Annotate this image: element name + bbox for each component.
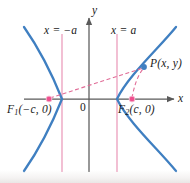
label-focus-left-coords: (−c, 0) <box>18 103 51 115</box>
focus-right-dot <box>129 96 135 102</box>
label-axis-x: x <box>178 93 183 105</box>
label-focus-right: F2(c, 0) <box>118 104 155 117</box>
hyperbola-canvas <box>0 0 190 183</box>
label-line-right: x = a <box>111 25 136 37</box>
focus-left-dot <box>46 96 52 102</box>
label-axis-y: y <box>92 5 97 17</box>
hyperbola-figure: x = −a x = a y x 0 F1(−c, 0) F2(c, 0) P(… <box>0 0 190 183</box>
label-focus-right-coords: (c, 0) <box>129 103 154 115</box>
label-focus-left: F1(−c, 0) <box>7 104 52 117</box>
label-line-left: x = −a <box>44 25 77 37</box>
label-origin: 0 <box>80 102 86 114</box>
label-point-p: P(x, y) <box>150 58 182 70</box>
focal-radius-f1-to-p <box>50 68 143 98</box>
point-p-dot <box>141 64 147 70</box>
